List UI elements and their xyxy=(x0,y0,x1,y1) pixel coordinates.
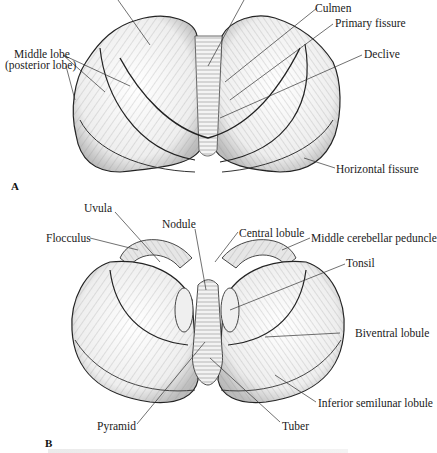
label-tuber: Tuber xyxy=(282,420,309,432)
panel-label-b: B xyxy=(45,437,52,449)
label-horizontal-fissure: Horizontal fissure xyxy=(336,163,419,175)
label-declive: Declive xyxy=(364,48,400,60)
label-middle-lobe-subtitle: (posterior lobe) xyxy=(5,59,76,71)
label-primary-fissure: Primary fissure xyxy=(335,17,406,29)
panel-a-drawing xyxy=(73,16,340,172)
label-middle-cerebellar-peduncle: Middle cerebellar peduncle xyxy=(311,232,437,244)
label-culmen: Culmen xyxy=(315,2,351,14)
label-uvula: Uvula xyxy=(84,202,112,214)
label-tonsil: Tonsil xyxy=(346,257,375,269)
label-flocculus: Flocculus xyxy=(46,232,91,244)
label-inferior-semilunar-lobule: Inferior semilunar lobule xyxy=(318,397,433,409)
panel-label-a: A xyxy=(11,180,19,192)
label-biventral-lobule: Biventral lobule xyxy=(355,327,429,339)
label-nodule: Nodule xyxy=(162,218,196,230)
label-central-lobule: Central lobule xyxy=(239,227,304,239)
label-pyramid: Pyramid xyxy=(97,420,136,432)
panel-b-drawing xyxy=(72,240,344,403)
cropped-caption-line xyxy=(48,449,348,453)
